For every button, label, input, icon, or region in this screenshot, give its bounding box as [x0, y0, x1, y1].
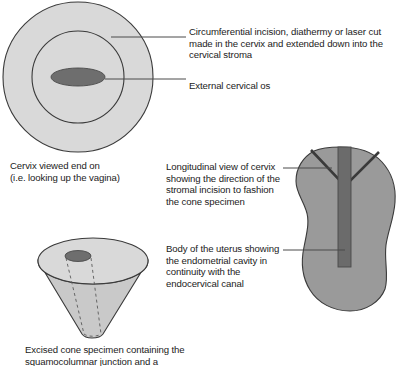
label-circumferential-incision: Circumferential incision, diathermy or l… [189, 26, 397, 61]
cone-external-os [65, 251, 91, 262]
caption-excised-cone-specimen: Excised cone specimen containing the squ… [25, 344, 275, 366]
label-external-cervical-os: External cervical os [189, 80, 369, 92]
figure-canvas: Circumferential incision, diathermy or l… [0, 0, 401, 366]
cone-top-rim [38, 238, 148, 284]
label-longitudinal-view: Longitudinal view of cervix showing the … [166, 161, 286, 207]
uterus-diagram [296, 147, 395, 311]
endocervical-canal [338, 147, 351, 267]
cervix-end-on-diagram [3, 2, 153, 152]
caption-cervix-viewed-end-on: Cervix viewed end on (i.e. looking up th… [10, 160, 180, 183]
cone-specimen-diagram [38, 238, 148, 338]
label-uterus-body: Body of the uterus showing the endometri… [166, 243, 288, 289]
external-cervical-os-ellipse [51, 68, 105, 86]
